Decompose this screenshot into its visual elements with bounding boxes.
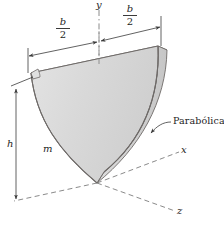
fraction-denominator: 2: [56, 30, 70, 41]
fraction-numerator: b: [56, 17, 70, 28]
dimension-arrow-right: [101, 27, 160, 41]
fraction-numerator: b: [123, 4, 137, 15]
height-dimension-group: [11, 77, 33, 199]
x-axis-label: x: [181, 145, 187, 155]
fraction-denominator: 2: [123, 17, 137, 28]
dimension-arrow-left: [29, 42, 97, 56]
mass-label: m: [43, 144, 52, 154]
witness-line-top: [11, 77, 33, 86]
height-dimension-label: h: [7, 139, 13, 149]
parabolic-annotation-label: Parabólica: [173, 116, 224, 126]
z-axis-line: [97, 183, 175, 211]
figure-canvas: y x z b 2 b 2 h m Parabólica: [0, 0, 224, 229]
dimension-label-half-width-right: b 2: [123, 4, 137, 27]
plate-front-face: [31, 46, 158, 183]
y-axis-label: y: [96, 0, 102, 10]
dimension-label-half-width-left: b 2: [56, 17, 70, 40]
z-axis-label: z: [177, 206, 182, 216]
annotation-leader-line: [151, 122, 171, 133]
base-reference-line: [14, 183, 97, 201]
